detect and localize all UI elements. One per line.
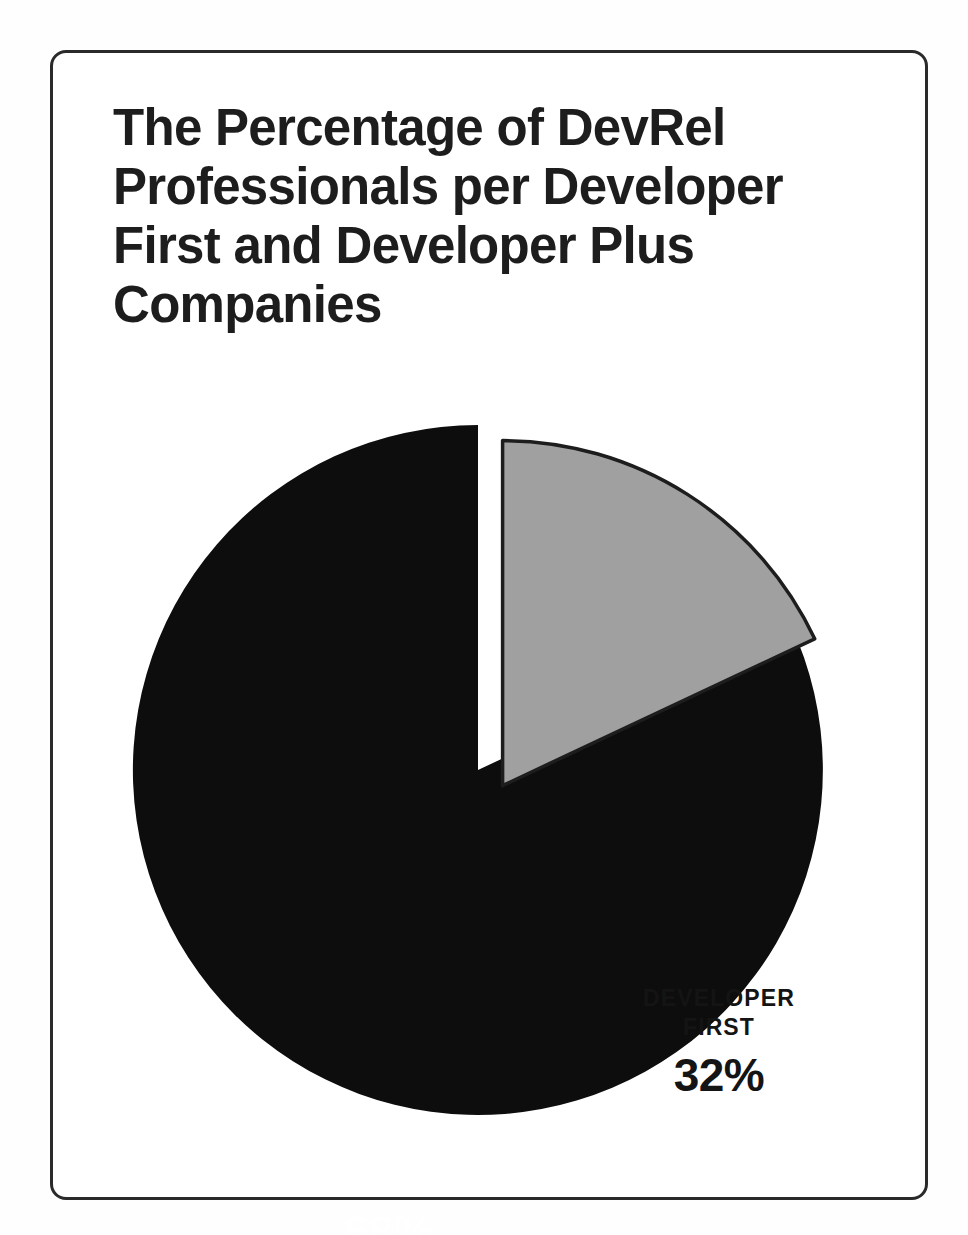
slice-label-developer-first: DEVELOPER FIRST 32% bbox=[599, 984, 839, 1101]
chart-canvas: The Percentage of DevRel Professionals p… bbox=[0, 0, 968, 1235]
slice-name-developer-plus: DEVELOPER PLUS bbox=[265, 1141, 513, 1198]
slice-label-developer-plus: DEVELOPER PLUS 68% bbox=[265, 1141, 513, 1235]
slice-value-developer-plus: 68% bbox=[265, 1207, 513, 1235]
chart-title: The Percentage of DevRel Professionals p… bbox=[113, 98, 833, 335]
pie-chart: DEVELOPER FIRST 32% DEVELOPER PLUS 68% bbox=[60, 370, 920, 1170]
slice-value-developer-first: 32% bbox=[599, 1050, 839, 1101]
slice-name-developer-first: DEVELOPER FIRST bbox=[599, 984, 839, 1041]
